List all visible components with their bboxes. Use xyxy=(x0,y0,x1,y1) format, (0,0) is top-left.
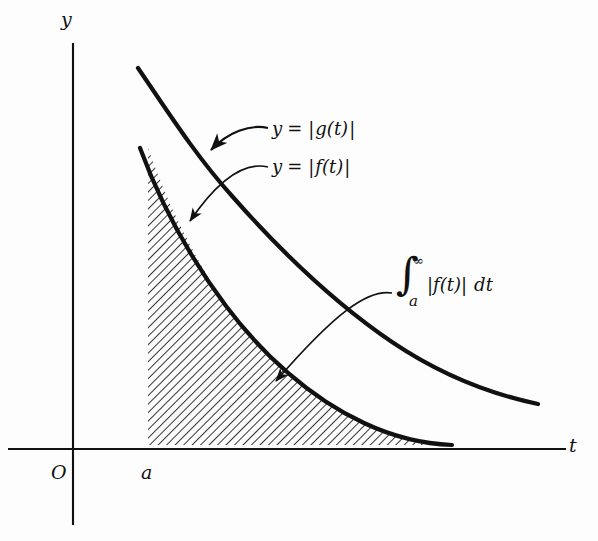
curve-label-g: y=|g(t)| xyxy=(272,118,356,139)
integral-integrand-group: |f(t)|dt xyxy=(427,274,493,295)
integral-lower-limit: a xyxy=(409,292,418,310)
integral-differential: dt xyxy=(467,274,493,295)
integral-upper-limit: ∞ xyxy=(413,253,424,268)
curve-label-f: y=|f(t)| xyxy=(272,156,351,177)
curve-label-g-expr: g(t) xyxy=(315,118,348,139)
figure-canvas xyxy=(0,0,598,541)
curve-label-g-y: y xyxy=(272,118,282,139)
callout-arrow-integral xyxy=(276,293,392,381)
origin-label: O xyxy=(51,461,67,483)
integral-expression: ∫ ∞ a |f(t)|dt xyxy=(396,256,493,316)
t-axis-label: t xyxy=(569,434,577,456)
curve-label-f-expr: f(t) xyxy=(315,156,343,177)
curve-label-f-bar-close: | xyxy=(343,156,351,177)
curve-label-g-equals: = xyxy=(282,118,307,139)
y-axis-label: y xyxy=(61,8,72,30)
curve-label-f-y: y xyxy=(272,156,282,177)
curve-label-g-bar-close: | xyxy=(348,118,356,139)
figure-container: y t O a y=|g(t)| y=|f(t)| ∫ ∞ a |f(t)|dt xyxy=(0,0,598,541)
integral-sign-group: ∫ ∞ a xyxy=(396,256,422,312)
integral-integrand: f(t) xyxy=(433,274,461,295)
curve-label-f-equals: = xyxy=(282,156,307,177)
tick-label-a: a xyxy=(141,461,152,483)
callout-arrow-g xyxy=(211,127,268,150)
